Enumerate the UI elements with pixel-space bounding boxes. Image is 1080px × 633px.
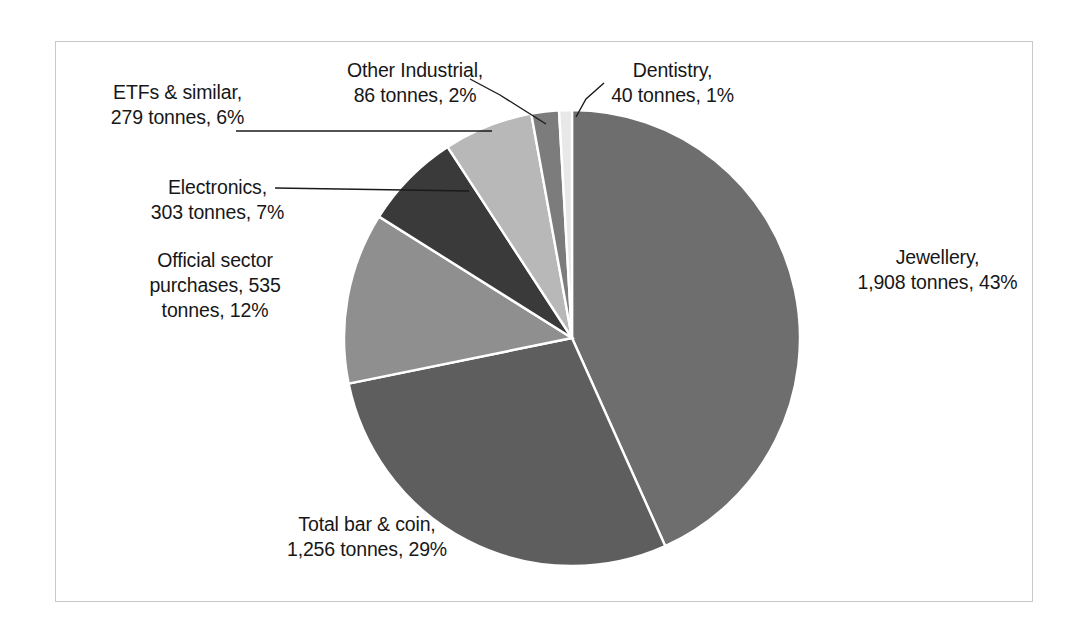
- pie-label-etfs: ETFs & similar, 279 tonnes, 6%: [70, 80, 285, 130]
- pie-slices-group: [344, 110, 800, 566]
- pie-label-total-bar-and-coin: Total bar & coin, 1,256 tonnes, 29%: [232, 512, 502, 562]
- pie-label-electronics: Electronics, 303 tonnes, 7%: [110, 175, 325, 225]
- pie-chart-figure: ETFs & similar, 279 tonnes, 6% Other Ind…: [0, 0, 1080, 633]
- pie-label-jewellery: Jewellery, 1,908 tonnes, 43%: [820, 245, 1055, 295]
- pie-label-other-industrial: Other Industrial, 86 tonnes, 2%: [300, 58, 530, 108]
- pie-label-dentistry: Dentistry, 40 tonnes, 1%: [570, 58, 775, 108]
- pie-label-official-sector-purchases: Official sector purchases, 535 tonnes, 1…: [100, 248, 330, 323]
